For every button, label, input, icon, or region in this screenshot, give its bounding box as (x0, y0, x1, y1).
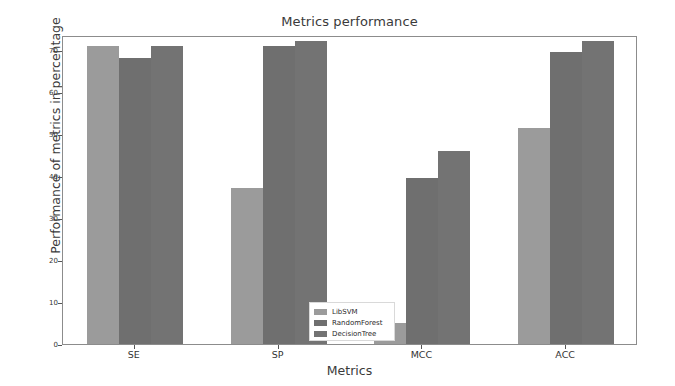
legend-swatch-icon (314, 309, 327, 315)
bar-se-libsvm (87, 46, 119, 344)
x-tick-mark (278, 345, 279, 349)
bar-acc-libsvm (518, 128, 550, 345)
legend-item-decisiontree[interactable]: DecisionTree (314, 328, 390, 339)
y-tick-mark (58, 345, 62, 346)
x-axis-label: Metrics (62, 363, 637, 378)
bar-se-randomforest (119, 58, 151, 344)
legend-item-libsvm[interactable]: LibSVM (314, 306, 390, 317)
x-tick-mark (421, 345, 422, 349)
y-axis-label: Performance of metrics in percentage (48, 0, 63, 291)
legend-label: LibSVM (332, 308, 358, 316)
legend-label: DecisionTree (332, 330, 376, 338)
x-tick-label: ACC (520, 349, 610, 360)
chart-title: Metrics performance (62, 14, 637, 29)
chart-figure: Metrics performance Performance of metri… (0, 0, 675, 386)
x-tick-label: SE (89, 349, 179, 360)
chart-legend[interactable]: LibSVMRandomForestDecisionTree (309, 302, 395, 341)
y-tick-label: 20 (0, 257, 58, 265)
y-tick-label: 10 (0, 299, 58, 307)
x-tick-mark (134, 345, 135, 349)
bar-acc-randomforest (550, 52, 582, 344)
bar-acc-decisiontree (582, 41, 614, 344)
y-tick-label: 0 (0, 341, 58, 349)
legend-label: RandomForest (332, 319, 382, 327)
legend-item-randomforest[interactable]: RandomForest (314, 317, 390, 328)
bar-sp-libsvm (231, 188, 263, 344)
y-tick-label: 30 (0, 215, 58, 223)
y-tick-label: 60 (0, 89, 58, 97)
legend-swatch-icon (314, 320, 327, 326)
y-tick-label: 40 (0, 173, 58, 181)
y-tick-label: 70 (0, 47, 58, 55)
x-tick-mark (565, 345, 566, 349)
legend-swatch-icon (314, 331, 327, 337)
plot-area (62, 36, 637, 345)
bar-mcc-decisiontree (438, 151, 470, 344)
bar-se-decisiontree (151, 46, 183, 344)
bar-sp-decisiontree (295, 41, 327, 344)
x-tick-label: SP (233, 349, 323, 360)
bar-sp-randomforest (263, 46, 295, 344)
y-tick-label: 50 (0, 131, 58, 139)
bar-mcc-randomforest (406, 178, 438, 344)
x-tick-label: MCC (376, 349, 466, 360)
